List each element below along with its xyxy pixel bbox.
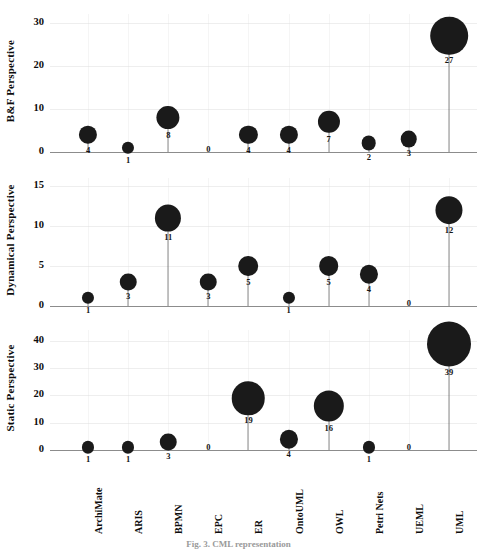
x-axis-category-label: ER [253,520,264,534]
data-value-label: 0 [407,442,411,452]
gridline [50,109,477,110]
gridline [50,368,477,369]
category-gridline [128,14,129,152]
data-value-label: 0 [407,298,411,308]
data-value-label: 8 [166,130,170,140]
gridline [50,423,477,424]
data-value-label: 4 [246,145,250,155]
data-value-label: 3 [206,291,210,301]
y-axis-tick: 0 [18,299,44,310]
data-bubble[interactable] [82,441,94,453]
data-bubble[interactable] [318,110,340,133]
y-axis-tick: 15 [18,179,44,190]
data-bubble[interactable] [313,391,343,422]
data-bubble[interactable] [122,441,134,453]
x-axis-category-label: Petri Nets [374,492,385,534]
x-axis-category-label: EPC [213,514,224,534]
data-bubble[interactable] [82,292,94,304]
x-axis-category-label: ArchiMate [93,488,104,534]
data-bubble[interactable] [279,125,297,144]
data-bubble[interactable] [361,136,376,151]
category-gridline [88,330,89,450]
data-bubble[interactable] [120,274,137,291]
data-bubble[interactable] [427,321,471,366]
data-bubble[interactable] [360,265,378,284]
x-axis-line [50,450,477,451]
category-gridline [128,330,129,450]
category-gridline [289,178,290,306]
data-bubble[interactable] [239,125,257,144]
y-axis-tick: 10 [18,219,44,230]
data-value-label: 4 [286,145,290,155]
data-bubble[interactable] [401,131,418,148]
y-axis-tick: 10 [18,416,44,427]
y-axis-tick: 30 [18,361,44,372]
y-axis-tick: 20 [18,388,44,399]
gridline [50,341,477,342]
data-value-label: 3 [126,291,130,301]
gridline [50,66,477,67]
data-bubble[interactable] [239,256,259,276]
y-axis-label: Static Perspective [4,328,16,448]
data-value-label: 0 [206,442,210,452]
data-value-label: 4 [86,145,90,155]
data-bubble[interactable] [430,16,468,55]
category-gridline [409,330,410,450]
y-axis-label: Dynamical Perspective [4,176,16,304]
y-axis-tick: 20 [18,59,44,70]
data-value-label: 7 [327,134,331,144]
data-bubble[interactable] [200,274,217,291]
data-value-label: 11 [164,232,172,242]
x-axis-category-label: ARIS [133,510,144,534]
category-gridline [369,14,370,152]
data-bubble[interactable] [155,205,181,232]
bubble-chart-figure: B&F Perspective010203041804472327Dynamic… [0,0,477,552]
gridline [50,226,477,227]
data-bubble[interactable] [283,292,295,304]
x-axis-category-label: UEML [414,504,425,534]
category-gridline [369,330,370,450]
data-value-label: 12 [445,225,454,235]
x-axis-category-label: BPMN [173,505,184,534]
data-value-label: 19 [244,415,253,425]
data-value-label: 3 [407,148,411,158]
category-gridline [208,14,209,152]
data-value-label: 16 [324,423,333,433]
data-bubble[interactable] [435,196,462,224]
data-bubble[interactable] [157,106,180,130]
data-value-label: 39 [445,367,454,377]
data-bubble[interactable] [79,125,97,144]
data-value-label: 1 [126,454,130,464]
data-value-label: 3 [166,451,170,461]
x-axis-category-label: UML [454,511,465,534]
data-value-label: 27 [445,55,454,65]
chart-panel: Static Perspective0102030401130194161039 [0,330,477,452]
data-value-label: 1 [86,454,90,464]
x-axis-category-label: OWL [334,510,345,534]
chart-panel: Dynamical Perspective051015131135154012 [0,178,477,308]
data-value-label: 1 [367,454,371,464]
y-axis-tick: 0 [18,443,44,454]
data-value-label: 4 [286,449,290,459]
y-axis-tick: 5 [18,259,44,270]
gridline [50,23,477,24]
y-axis-tick: 40 [18,334,44,345]
figure-caption: Fig. 3. CML representation [0,539,477,552]
data-bubble[interactable] [232,382,265,415]
data-bubble[interactable] [319,256,339,276]
data-bubble[interactable] [160,433,177,450]
category-gridline [409,178,410,306]
category-gridline [168,330,169,450]
x-axis-category-label: OntoUML [294,489,305,534]
data-value-label: 5 [246,277,250,287]
data-value-label: 0 [206,144,210,154]
category-gridline [88,178,89,306]
x-axis-line [50,306,477,307]
data-value-label: 1 [286,305,290,315]
chart-panel: B&F Perspective010203041804472327 [0,14,477,154]
data-bubble[interactable] [363,441,375,453]
data-bubble[interactable] [279,430,297,449]
data-value-label: 2 [367,152,371,162]
y-axis-tick: 30 [18,16,44,27]
data-value-label: 5 [327,277,331,287]
